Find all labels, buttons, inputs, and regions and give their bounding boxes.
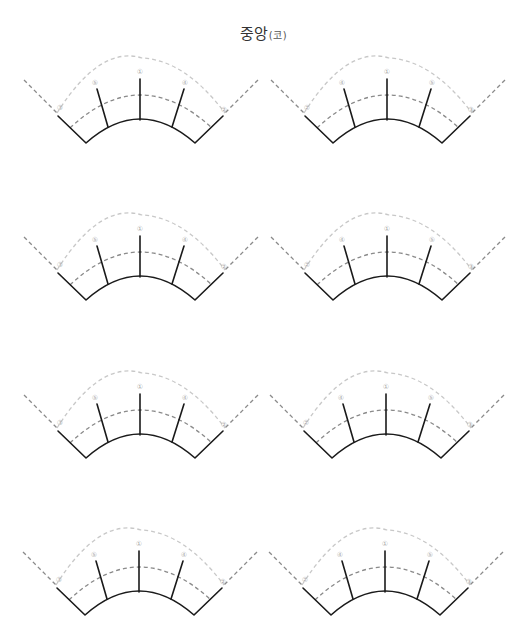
position-label: ⑤ (92, 394, 98, 402)
position-label: ④ (339, 236, 345, 244)
inner-dashed-arc (70, 410, 212, 443)
label-text: ② (303, 419, 309, 427)
fan-diagram: ②④①⑤③ (270, 371, 504, 458)
label-text: ⑤ (429, 236, 435, 244)
position-label: ④ (182, 394, 188, 402)
label-text: ③ (57, 419, 63, 427)
label-text: ② (221, 421, 227, 429)
inner-dashed-arc (316, 410, 458, 443)
right-spoke (417, 561, 429, 599)
label-text: ③ (466, 578, 472, 586)
position-label: ① (137, 383, 143, 391)
position-label: ② (220, 578, 226, 586)
left-spoke (97, 246, 108, 284)
position-label: ② (221, 421, 227, 429)
label-text: ⑤ (428, 394, 434, 402)
outer-dashed-arc (304, 213, 472, 270)
position-label: ④ (338, 394, 344, 402)
outer-dashed-arc (304, 56, 472, 113)
right-extension-dashed-line (472, 80, 505, 113)
position-label: ④ (182, 236, 188, 244)
position-label: ⑤ (92, 236, 98, 244)
left-extension-dashed-line (271, 80, 304, 113)
label-text: ③ (468, 106, 474, 114)
label-text: ⑤ (92, 79, 98, 87)
right-extension-dashed-line (471, 395, 504, 428)
fan-diagram-grid: ③⑤①④②②④①⑤③③⑤①④②②④①⑤③③⑤①④②②④①⑤③③⑤①④②②④①⑤③ (0, 0, 527, 639)
label-text: ② (304, 261, 310, 269)
label-text: ② (221, 263, 227, 271)
right-spoke (172, 404, 184, 442)
fan-diagram: ②④①⑤③ (271, 56, 505, 143)
left-spoke (97, 89, 108, 127)
right-spoke (172, 89, 184, 127)
label-text: ① (137, 225, 143, 233)
inner-dashed-arc (315, 567, 457, 600)
label-text: ① (136, 540, 142, 548)
right-spoke (172, 246, 184, 284)
label-text: ⑤ (429, 79, 435, 87)
right-spoke (418, 404, 430, 442)
position-label: ⑤ (429, 236, 435, 244)
right-extension-dashed-line (225, 237, 258, 270)
left-extension-dashed-line (24, 237, 57, 270)
label-text: ③ (57, 261, 63, 269)
fan-diagram: ③⑤①④② (24, 371, 258, 458)
position-label: ④ (337, 551, 343, 559)
label-text: ④ (182, 79, 188, 87)
position-label: ② (221, 106, 227, 114)
left-spoke (96, 561, 107, 599)
position-label: ⑤ (427, 551, 433, 559)
label-text: ① (137, 68, 143, 76)
position-label: ③ (467, 421, 473, 429)
position-label: ① (137, 225, 143, 233)
inner-dashed-arc (317, 95, 459, 128)
outer-dashed-arc (57, 56, 225, 113)
label-text: ① (383, 383, 389, 391)
position-label: ② (302, 576, 308, 584)
position-label: ② (303, 419, 309, 427)
label-text: ① (382, 540, 388, 548)
outer-dashed-arc (303, 371, 471, 428)
position-label: ③ (57, 419, 63, 427)
label-text: ② (220, 578, 226, 586)
position-label: ③ (57, 104, 63, 112)
fan-diagram: ③⑤①④② (24, 213, 258, 300)
label-text: ① (137, 383, 143, 391)
inner-dashed-arc (70, 95, 212, 128)
position-label: ② (304, 104, 310, 112)
position-label: ① (384, 68, 390, 76)
position-label: ④ (182, 79, 188, 87)
label-text: ④ (181, 551, 187, 559)
left-extension-dashed-line (23, 552, 56, 585)
label-text: ① (384, 68, 390, 76)
position-label: ④ (339, 79, 345, 87)
label-text: ④ (337, 551, 343, 559)
position-label: ① (384, 225, 390, 233)
left-extension-dashed-line (270, 395, 303, 428)
right-extension-dashed-line (225, 80, 258, 113)
fan-diagram: ③⑤①④② (23, 528, 257, 615)
label-text: ② (302, 576, 308, 584)
inner-dashed-arc (70, 252, 212, 285)
position-label: ③ (57, 261, 63, 269)
label-text: ① (384, 225, 390, 233)
position-label: ③ (466, 578, 472, 586)
fan-diagram: ③⑤①④② (24, 56, 258, 143)
label-text: ② (221, 106, 227, 114)
label-text: ④ (182, 394, 188, 402)
position-label: ③ (56, 576, 62, 584)
label-text: ③ (467, 421, 473, 429)
position-label: ⑤ (428, 394, 434, 402)
position-label: ⑤ (92, 79, 98, 87)
inner-dashed-arc (317, 252, 459, 285)
label-text: ⑤ (91, 551, 97, 559)
label-text: ⑤ (427, 551, 433, 559)
outer-dashed-arc (57, 213, 225, 270)
right-extension-dashed-line (470, 552, 503, 585)
left-extension-dashed-line (24, 395, 57, 428)
left-extension-dashed-line (269, 552, 302, 585)
left-spoke (343, 404, 354, 442)
position-label: ② (221, 263, 227, 271)
label-text: ④ (339, 236, 345, 244)
